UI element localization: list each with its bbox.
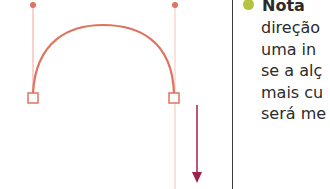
bezier-curve <box>33 25 174 93</box>
right-handle-dot[interactable] <box>172 2 178 8</box>
note-line: se a alç <box>261 60 330 82</box>
note-header: Nota <box>243 0 330 16</box>
note-line: uma in <box>261 39 330 61</box>
note-block: Nota direção uma in se a alç mais cu ser… <box>243 0 330 129</box>
bullet-dot-icon <box>243 0 254 10</box>
note-body: direção uma in se a alç mais cu será me <box>261 17 330 125</box>
note-line: mais cu <box>261 82 330 104</box>
note-line: será me <box>261 103 330 125</box>
left-handle-dot[interactable] <box>30 2 36 8</box>
left-anchor-point[interactable] <box>28 93 38 103</box>
note-title: Nota <box>262 0 305 15</box>
column-divider <box>232 0 233 189</box>
arrow-down-icon <box>192 172 202 183</box>
bezier-curve-diagram <box>0 0 232 189</box>
right-anchor-point[interactable] <box>169 93 179 103</box>
note-line: direção <box>261 17 330 39</box>
